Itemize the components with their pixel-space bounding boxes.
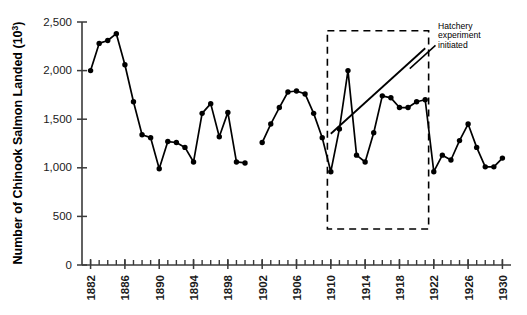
y-tick-label: 1,500 [43, 113, 72, 125]
data-point [423, 97, 428, 102]
data-point [114, 31, 119, 36]
x-tick-label: 1910 [325, 275, 337, 301]
data-point [448, 157, 453, 162]
data-point [320, 135, 325, 140]
x-tick-label: 1918 [394, 274, 406, 300]
data-point [302, 91, 307, 96]
data-point [199, 111, 204, 116]
x-tick-label: 1906 [291, 275, 303, 301]
data-point [483, 164, 488, 169]
x-tick-label: 1926 [463, 275, 475, 301]
salmon-landings-line [91, 34, 503, 172]
x-axis-major-ticks [91, 259, 503, 269]
hatchery-annotation-text: Hatchery experiment initiated [438, 21, 481, 50]
data-point [96, 41, 101, 46]
data-point [191, 159, 196, 164]
data-point [208, 101, 213, 106]
x-tick-label: 1930 [497, 275, 509, 301]
data-point [234, 159, 239, 164]
y-axis-title-main: Number of Chinook Salmon Landed (10 [11, 30, 25, 264]
x-tick-label: 1882 [85, 275, 97, 301]
data-point [440, 152, 445, 157]
data-point [105, 38, 110, 43]
data-point [328, 169, 333, 174]
data-point [217, 134, 222, 139]
data-point [491, 164, 496, 169]
x-tick-label: 1894 [188, 274, 200, 300]
hatchery-period-box [327, 31, 428, 229]
data-point [457, 138, 462, 143]
data-point [88, 68, 93, 73]
data-point [294, 88, 299, 93]
x-axis-tick-labels: 1882188618901894189819021906191019141918… [85, 274, 509, 300]
annotation-leader-line [410, 45, 436, 68]
chart-figure: Number of Chinook Salmon Landed (103) 05… [0, 0, 527, 315]
data-point [474, 145, 479, 150]
data-point [259, 140, 264, 145]
data-point [362, 159, 367, 164]
y-tick-label: 2,500 [43, 16, 72, 28]
x-tick-label: 1890 [154, 275, 166, 301]
data-point [277, 105, 282, 110]
data-point [431, 169, 436, 174]
data-point [397, 105, 402, 110]
x-tick-label: 1886 [119, 275, 131, 301]
data-point [268, 121, 273, 126]
y-tick-label: 500 [53, 210, 72, 222]
data-point [388, 95, 393, 100]
data-point [465, 121, 470, 126]
y-tick-label: 2,000 [43, 64, 72, 76]
y-tick-label: 0 [66, 259, 72, 271]
data-point [285, 89, 290, 94]
data-point [165, 139, 170, 144]
data-point [148, 135, 153, 140]
annotation-line-3: initiated [438, 40, 468, 50]
salmon-landings-markers [88, 31, 505, 174]
data-point [182, 145, 187, 150]
y-axis-title-tail: ) [11, 22, 25, 26]
chinook-salmon-line-chart: Number of Chinook Salmon Landed (103) 05… [0, 0, 527, 315]
data-point [345, 68, 350, 73]
data-point [122, 62, 127, 67]
data-point [157, 166, 162, 171]
data-point [371, 130, 376, 135]
data-point [354, 152, 359, 157]
data-point [405, 105, 410, 110]
x-tick-label: 1922 [428, 275, 440, 301]
y-axis-tick-labels: 05001,0001,5002,0002,500 [43, 16, 72, 271]
y-tick-label: 1,000 [43, 161, 72, 173]
x-tick-label: 1898 [222, 274, 234, 300]
data-point [242, 160, 247, 165]
data-point [131, 99, 136, 104]
data-point [139, 132, 144, 137]
annotation-line-2: experiment [438, 30, 481, 40]
data-point [380, 93, 385, 98]
data-point [500, 155, 505, 160]
annotation-line-1: Hatchery [438, 21, 473, 31]
data-point [414, 99, 419, 104]
data-point [174, 140, 179, 145]
svg-text:Number of Chinook Salmon Lande: Number of Chinook Salmon Landed (103) [10, 22, 25, 265]
x-tick-label: 1902 [257, 275, 269, 301]
data-point [225, 110, 230, 115]
x-tick-label: 1914 [360, 274, 372, 300]
y-axis-title: Number of Chinook Salmon Landed (103) [10, 22, 25, 265]
data-point [311, 111, 316, 116]
